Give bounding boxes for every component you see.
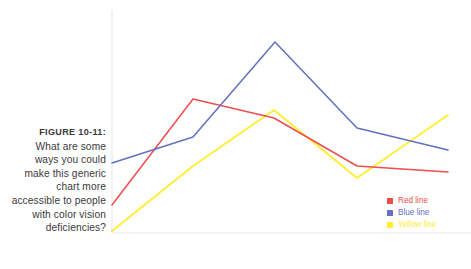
legend-item-red[interactable]: Red line xyxy=(387,195,465,206)
legend-swatch-red-icon xyxy=(387,198,393,204)
figure-page: FIGURE 10-11: What are some ways you cou… xyxy=(0,0,471,269)
legend-label-red: Red line xyxy=(398,196,428,205)
legend-item-yellow[interactable]: Yellow line xyxy=(387,219,465,230)
legend-label-blue: Blue line xyxy=(398,208,429,217)
legend-item-blue[interactable]: Blue line xyxy=(387,207,465,218)
chart-legend: Red line Blue line Yellow line xyxy=(387,195,465,231)
legend-swatch-yellow-icon xyxy=(387,222,393,228)
series-line-blue xyxy=(112,42,448,163)
legend-label-yellow: Yellow line xyxy=(398,220,436,229)
legend-swatch-blue-icon xyxy=(387,210,393,216)
